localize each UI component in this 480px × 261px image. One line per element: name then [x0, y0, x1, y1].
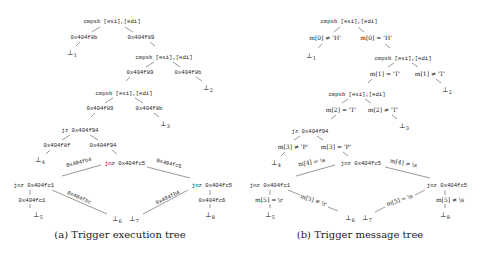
jz-node: jz 0x404f94 — [62, 127, 99, 134]
leaf-7: ⊥7 — [362, 214, 372, 224]
edge-label: m[0] ≠ 'H' — [309, 34, 341, 41]
leaf-5: ⊥5 — [265, 211, 275, 221]
jnz-mid-node: jnz 0x404fc5 — [105, 160, 145, 167]
edge-label: m[1] ≠ 'T' — [415, 70, 445, 77]
edge-label: m[0] = 'H' — [360, 34, 392, 41]
leaf-8: ⊥8 — [440, 211, 450, 221]
edge-label: 0x404fc6 — [199, 197, 226, 204]
jnz-right-node: jnz 0x404fc5 — [192, 182, 232, 189]
leaf-2: ⊥2 — [203, 84, 213, 94]
edge-label: m[1] = 'T' — [370, 70, 400, 77]
edge-label: m[2] = 'T' — [326, 106, 356, 113]
jnz-left-node: jnz 0x404fc1 — [250, 182, 290, 189]
leaf-3: ⊥3 — [160, 120, 170, 130]
jnz-left-node: jnz 0x404fc1 — [14, 182, 54, 189]
edge-label: m[3] = 'P' — [321, 143, 351, 150]
edge-label: 0x404f89 — [87, 105, 114, 112]
edge-label: 0x404f8b — [136, 105, 163, 112]
second-cmpsb-node: cmpsb [esi],[edi] — [374, 55, 431, 62]
message-tree-panel: cmpsb [esi],[edi] m[0] ≠ 'H' m[0] = 'H' … — [240, 0, 480, 261]
edge-label: 0x404f94 — [90, 142, 117, 149]
edge-label: m[5] = \r — [255, 196, 283, 203]
edge-label: m[5] ≠ \s — [436, 196, 464, 203]
leaf-3: ⊥3 — [399, 122, 409, 132]
edge-label: 0x404fc1 — [19, 197, 46, 204]
edge-label: 0x404f89 — [128, 34, 155, 41]
edge-label: m[3] ≠ 'P' — [278, 143, 308, 150]
jnz-right-node: jnz 0x404fc5 — [427, 182, 467, 189]
edge-label: 0x404f89 — [127, 69, 154, 76]
edge-label: 0x404f8b — [71, 34, 98, 41]
caption-a: (a) Trigger execution tree — [0, 229, 240, 240]
leaf-1: ⊥1 — [306, 52, 316, 62]
edge-label: 0x404f8f — [44, 142, 71, 149]
leaf-6: ⊥6 — [345, 214, 355, 224]
edge-label: m[2] ≠ 'T' — [368, 106, 398, 113]
leaf-1: ⊥1 — [67, 49, 77, 59]
caption-b: (b) Trigger message tree — [240, 229, 480, 240]
edge-label: 0x404f8b — [175, 69, 202, 76]
third-cmpsb-node: cmpsb [esi],[edi] — [95, 90, 152, 97]
leaf-6: ⊥6 — [112, 215, 122, 225]
leaf-2: ⊥2 — [442, 86, 452, 96]
second-cmpsb-node: cmpsb [esi],[edi] — [135, 54, 192, 61]
leaf-4: ⊥4 — [35, 156, 45, 166]
leaf-5: ⊥5 — [33, 211, 43, 221]
jnz-mid-node: jnz 0x404fc5 — [341, 160, 381, 167]
leaf-4: ⊥4 — [271, 159, 281, 169]
root-cmpsb-node: cmpsb [esi],[edi] — [320, 18, 377, 25]
leaf-8: ⊥8 — [205, 211, 215, 221]
jz-node: jz 0x404f94 — [292, 128, 329, 135]
leaf-7: ⊥7 — [129, 215, 139, 225]
root-cmpsb-node: cmpsb [esi],[edi] — [83, 18, 140, 25]
execution-tree-panel: cmpsb [esi],[edi] 0x404f8b 0x404f89 ⊥1 c… — [0, 0, 240, 261]
third-cmpsb-node: cmpsb [esi],[edi] — [328, 91, 385, 98]
